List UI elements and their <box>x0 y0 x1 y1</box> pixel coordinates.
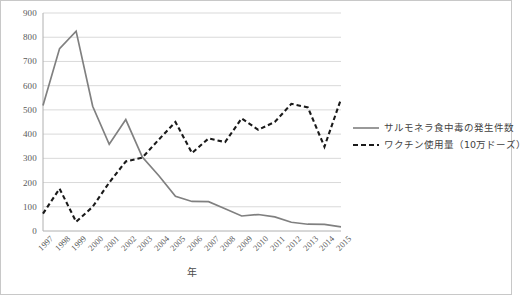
x-tick-label: 2012 <box>285 234 304 253</box>
y-tick-label: 500 <box>23 105 37 114</box>
y-tick-label: 900 <box>23 9 37 18</box>
x-tick-label: 1998 <box>53 234 72 253</box>
y-tick-label: 400 <box>23 130 37 139</box>
x-tick-label: 2005 <box>169 234 188 253</box>
legend-dashed-line-icon <box>353 140 379 150</box>
x-tick-label: 2011 <box>268 234 286 252</box>
x-tick-label: 2009 <box>235 234 254 253</box>
x-axis-title: 年 <box>43 267 341 279</box>
legend-item-vaccine: ワクチン使用量（10万ドーズ） <box>353 136 509 153</box>
x-tick-label: 2007 <box>202 234 221 253</box>
x-tick-label: 1999 <box>70 234 89 253</box>
x-tick-label: 2010 <box>252 234 271 253</box>
series-line-2 <box>43 99 341 222</box>
y-tick-label: 300 <box>23 154 37 163</box>
series-line-1 <box>43 31 341 227</box>
x-tick-label: 2000 <box>86 234 105 253</box>
legend-item-salmonella: サルモネラ食中毒の発生件数 <box>353 119 509 136</box>
legend-solid-line-icon <box>353 123 379 133</box>
y-axis: 9008007006005004003002001000 <box>1 1 41 243</box>
legend-label-vaccine: ワクチン使用量（10万ドーズ） <box>384 139 524 150</box>
y-tick-label: 600 <box>23 81 37 90</box>
x-tick-label: 2014 <box>318 234 337 253</box>
legend-label-salmonella: サルモネラ食中毒の発生件数 <box>384 122 514 133</box>
plot-svg <box>43 13 341 231</box>
y-tick-label: 0 <box>32 227 37 236</box>
x-tick-label: 2001 <box>103 234 122 253</box>
x-tick-label: 2003 <box>136 234 155 253</box>
x-tick-label: 2008 <box>219 234 238 253</box>
x-tick-label: 2006 <box>186 234 205 253</box>
y-tick-label: 100 <box>23 202 37 211</box>
chart-legend: サルモネラ食中毒の発生件数 ワクチン使用量（10万ドーズ） <box>353 119 509 153</box>
y-tick-label: 800 <box>23 33 37 42</box>
y-tick-label: 700 <box>23 57 37 66</box>
y-tick-label: 200 <box>23 178 37 187</box>
x-axis: 1997199819992000200120022003200420052006… <box>43 233 341 267</box>
plot-area <box>43 13 341 231</box>
x-tick-label: 2015 <box>335 234 354 253</box>
